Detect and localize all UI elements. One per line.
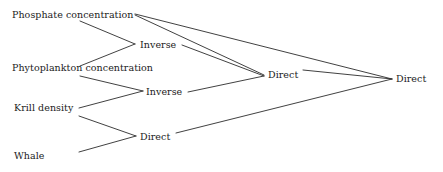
relation-inverse-phytoplankton-krill: Inverse xyxy=(146,86,182,97)
edge-group xyxy=(79,14,392,152)
diagram-canvas: Phosphate concentration Phytoplankton co… xyxy=(0,0,443,172)
node-krill-density: Krill density xyxy=(14,102,73,113)
edge-inverse-2-to-direct-2 xyxy=(188,76,264,92)
relation-direct-krill-whale: Direct xyxy=(140,131,170,142)
node-whale: Whale xyxy=(14,150,44,161)
edge-phytoplankton-to-inverse-2 xyxy=(80,76,143,91)
node-phosphate-concentration: Phosphate concentration xyxy=(12,9,134,20)
edge-krill-to-direct-1 xyxy=(79,116,136,136)
relation-inverse-phosphate-phytoplankton: Inverse xyxy=(140,39,176,50)
edge-direct-1-to-direct-3 xyxy=(176,79,392,133)
relation-direct-middle: Direct xyxy=(268,69,298,80)
node-phytoplankton-concentration: Phytoplankton concentration xyxy=(12,62,153,73)
edge-layer xyxy=(0,0,443,172)
relation-direct-root: Direct xyxy=(396,73,426,84)
edge-inverse-1-to-direct-2 xyxy=(182,45,264,76)
edge-direct-2-to-direct-3 xyxy=(303,70,392,79)
edge-whale-to-direct-1 xyxy=(79,136,136,152)
edge-krill-to-inverse-2 xyxy=(79,91,143,108)
edge-phosphate-to-inverse-1 xyxy=(80,21,135,44)
